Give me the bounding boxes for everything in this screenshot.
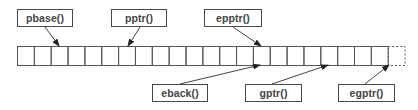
buffer-cell [135, 47, 152, 66]
buffer-cell [51, 47, 68, 66]
stream-buffer-diagram: pbase() pptr() epptr() eback() gptr() eg… [0, 0, 418, 110]
buffer-cell [18, 47, 35, 66]
pptr-label: pptr() [111, 9, 167, 27]
pbase-label: pbase() [17, 9, 73, 27]
buffer-cell [371, 47, 388, 66]
gptr-label: gptr() [245, 84, 302, 102]
buffer-cell [102, 47, 119, 66]
buffer-cell [355, 47, 372, 66]
buffer-cell [270, 47, 287, 66]
buffer-cell [203, 47, 220, 66]
egptr-label: egptr() [338, 84, 395, 102]
buffer-cell [152, 47, 169, 66]
gptr-arrow [272, 65, 328, 84]
buffer-cell [68, 47, 85, 66]
buffer-cell [119, 47, 136, 66]
buffer-cell [85, 47, 102, 66]
buffer-cell-dashed [388, 47, 405, 66]
buffer-cells [18, 47, 406, 66]
buffer-cell [34, 47, 51, 66]
buffer-cell [304, 47, 321, 66]
buffer-cell [338, 47, 355, 66]
egptr-arrow [365, 65, 389, 84]
epptr-label: epptr() [204, 9, 262, 27]
buffer-cell [169, 47, 186, 66]
buffer-cell [220, 47, 237, 66]
pbase-arrow [45, 27, 59, 46]
pptr-arrow [128, 27, 140, 46]
eback-arrow [180, 65, 260, 84]
buffer-cell [287, 47, 304, 66]
buffer-cell [237, 47, 254, 66]
buffer-cell [186, 47, 203, 66]
buffer-cell [253, 47, 270, 66]
eback-label: eback() [152, 84, 208, 102]
buffer-cell [321, 47, 338, 66]
epptr-arrow [233, 27, 261, 46]
